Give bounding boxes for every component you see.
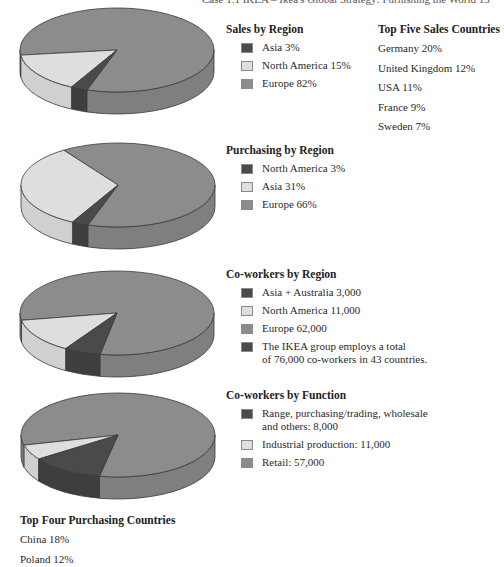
legend-item-europe: Europe 66%	[226, 198, 345, 211]
top-five-sales-countries: Top Five Sales Countries Germany 20% Uni…	[378, 23, 500, 140]
legend-item-europe: Europe 62,000	[226, 322, 427, 335]
swatch-dark	[241, 409, 253, 419]
coworkers-by-function-legend: Co-workers by Function Range, purchasing…	[226, 389, 428, 474]
legend-item-north-america: North America 15%	[226, 59, 351, 72]
legend-item-north-america: North America 11,000	[226, 304, 427, 317]
legend-item-europe: Europe 82%	[226, 77, 351, 90]
swatch-mid	[241, 79, 253, 89]
coworkers-by-region-title: Co-workers by Region	[226, 268, 427, 280]
legend-item-total-note: The IKEA group employs a totalof 76,000 …	[226, 340, 427, 366]
country-row: China 18%	[20, 533, 175, 546]
sales-by-region-title: Sales by Region	[226, 23, 351, 35]
swatch-mid	[241, 324, 253, 334]
swatch-light	[241, 440, 253, 450]
top-five-sales-title: Top Five Sales Countries	[378, 23, 500, 35]
swatch-light	[241, 61, 253, 71]
coworkers-by-region-legend: Co-workers by Region Asia + Australia 3,…	[226, 268, 427, 371]
legend-item-asia: Asia 31%	[226, 180, 345, 193]
swatch-light	[241, 182, 253, 192]
pie-1-dark-side	[71, 87, 87, 112]
legend-item-asia: Asia 3%	[226, 41, 351, 54]
legend-item-industrial-production: Industrial production: 11,000	[226, 438, 428, 451]
pie-2-dark-side	[72, 222, 88, 247]
purchasing-by-region-title: Purchasing by Region	[226, 144, 345, 156]
country-row: Poland 12%	[20, 553, 175, 566]
legend-item-retail: Retail: 57,000	[226, 456, 428, 469]
swatch-mid	[241, 200, 253, 210]
sales-by-region-legend: Sales by Region Asia 3% North America 15…	[226, 23, 351, 95]
country-row: Sweden 7%	[378, 120, 500, 133]
swatch-dark	[241, 288, 253, 298]
swatch-dark	[241, 342, 253, 352]
swatch-dark	[241, 43, 253, 53]
legend-item-north-america: North America 3%	[226, 162, 345, 175]
running-header: Case 1.1 IKEA – Ikea's Global Strategy: …	[202, 0, 490, 5]
coworkers-by-function-title: Co-workers by Function	[226, 389, 428, 401]
country-row: USA 11%	[378, 81, 500, 94]
swatch-dark	[241, 164, 253, 174]
legend-item-range-purchasing: Range, purchasing/trading, wholesaleand …	[226, 407, 428, 433]
country-row: France 9%	[378, 101, 500, 114]
pie-charts	[0, 0, 230, 520]
swatch-mid	[241, 458, 253, 468]
legend-item-asia-australia: Asia + Australia 3,000	[226, 286, 427, 299]
country-row: Germany 20%	[378, 42, 500, 55]
swatch-light	[241, 306, 253, 316]
top-four-purchasing-title: Top Four Purchasing Countries	[20, 514, 175, 526]
purchasing-by-region-legend: Purchasing by Region North America 3% As…	[226, 144, 345, 216]
top-four-purchasing-countries: Top Four Purchasing Countries China 18% …	[20, 514, 175, 567]
country-row: United Kingdom 12%	[378, 62, 500, 75]
